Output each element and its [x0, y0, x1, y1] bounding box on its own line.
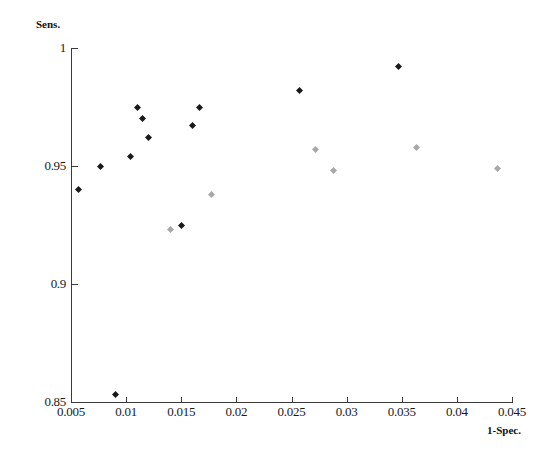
data-point-marker [196, 104, 203, 111]
x-tick-label: 0.005 [57, 404, 85, 420]
data-point-marker [395, 63, 402, 70]
x-tick-label: 0.04 [446, 404, 468, 420]
x-tick-mark [457, 397, 458, 403]
data-point-marker [330, 167, 337, 174]
data-point-marker [312, 146, 319, 153]
y-tick-label: 0.95 [20, 158, 66, 174]
x-tick-label: 0.03 [336, 404, 358, 420]
data-point-marker [208, 191, 215, 198]
x-axis-title: 1-Spec. [487, 424, 521, 436]
y-tick-label: 0.9 [20, 276, 66, 292]
data-point-marker [112, 391, 119, 398]
y-tick-mark [72, 166, 78, 167]
x-tick-label: 0.035 [388, 404, 416, 420]
y-tick-label: 1 [20, 40, 66, 56]
y-axis-title: Sens. [36, 18, 60, 30]
x-tick-label: 0.02 [226, 404, 248, 420]
x-tick-mark [512, 397, 513, 403]
y-axis-line [71, 48, 72, 403]
x-tick-mark [71, 397, 72, 403]
x-tick-label: 0.025 [278, 404, 306, 420]
data-point-marker [413, 144, 420, 151]
x-tick-label: 0.015 [167, 404, 195, 420]
data-point-marker [134, 104, 141, 111]
x-tick-mark [292, 397, 293, 403]
data-point-marker [178, 222, 185, 229]
x-tick-mark [347, 397, 348, 403]
data-point-marker [75, 186, 82, 193]
x-tick-label: 0.045 [498, 404, 526, 420]
scatter-plot-figure: Sens. 1-Spec. 0.850.90.951 0.0050.010.01… [0, 0, 560, 455]
data-point-marker [139, 115, 146, 122]
x-tick-mark [402, 397, 403, 403]
y-tick-mark [72, 402, 78, 403]
data-point-marker [167, 226, 174, 233]
data-point-marker [127, 153, 134, 160]
data-point-marker [97, 163, 104, 170]
data-point-marker [296, 87, 303, 94]
x-tick-mark [126, 397, 127, 403]
x-tick-mark [181, 397, 182, 403]
data-point-marker [145, 134, 152, 141]
y-tick-mark [72, 284, 78, 285]
y-tick-mark [72, 48, 78, 49]
data-point-marker [494, 165, 501, 172]
x-tick-mark [236, 397, 237, 403]
data-point-marker [189, 122, 196, 129]
x-tick-label: 0.01 [115, 404, 137, 420]
